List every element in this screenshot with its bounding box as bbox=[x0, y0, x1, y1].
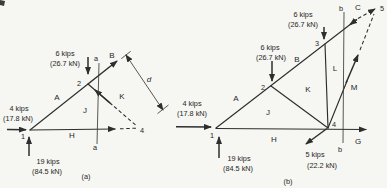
panel-b: 6 kips (26.7 kN) 6 kips (26.7 kN) 4 kips… bbox=[176, 3, 384, 187]
b-region-C-label: C bbox=[355, 3, 361, 12]
b-load-arrow-node4 bbox=[306, 129, 327, 145]
b-diagonal-member-2-4 bbox=[271, 86, 328, 128]
a-region-B-label: B bbox=[109, 51, 114, 60]
b-region-J-label: J bbox=[266, 108, 270, 117]
b-region-M-label: M bbox=[351, 83, 358, 92]
a-dimension-d-label: d bbox=[147, 75, 152, 84]
a-top-chord-member bbox=[30, 84, 88, 130]
a-load-node1-kn: (17.8 kN) bbox=[3, 114, 33, 123]
b-region-L-label: L bbox=[333, 64, 338, 73]
b-diagonal-member-4-5 bbox=[328, 81, 347, 128]
b-load-node1-kips: 4 kips bbox=[182, 99, 201, 108]
b-node-3-label: 3 bbox=[315, 39, 319, 48]
a-reaction-node1-kn: (84.5 kN) bbox=[32, 167, 62, 176]
b-diagonal-force-M-arrow bbox=[346, 55, 358, 83]
a-region-H-label: H bbox=[69, 131, 75, 140]
b-diagonal-dashed-extension-to-node5 bbox=[360, 14, 374, 50]
b-reaction-node1-kips: 19 kips bbox=[227, 154, 250, 163]
a-load-node2-kips: 6 kips bbox=[55, 49, 74, 58]
b-top-chord-force-C-arrow bbox=[350, 19, 357, 24]
b-section-line bbox=[343, 12, 344, 143]
a-node-2-label: 2 bbox=[77, 79, 81, 88]
b-load-node3-kips: 6 kips bbox=[293, 10, 312, 19]
a-top-chord-force-B-arrow bbox=[88, 61, 117, 84]
b-node-5-label: 5 bbox=[380, 4, 384, 13]
b-section-label-bottom: b bbox=[338, 145, 342, 154]
figure-page: 6 kips (26.7 kN) 4 kips (17.8 kN) 19 kip… bbox=[0, 0, 387, 188]
b-region-G-label: G bbox=[355, 137, 361, 146]
b-panel-caption: (b) bbox=[284, 177, 293, 186]
a-panel-caption: (a) bbox=[82, 172, 91, 181]
a-dimension-tick-top bbox=[121, 51, 130, 58]
panel-a: 6 kips (26.7 kN) 4 kips (17.8 kN) 19 kip… bbox=[3, 49, 169, 181]
b-section-label-top: b bbox=[339, 4, 343, 13]
a-reaction-node1-kips: 19 kips bbox=[36, 157, 59, 166]
a-bottom-chord-force-H-arrow bbox=[30, 129, 115, 130]
b-region-H-label: H bbox=[271, 135, 277, 144]
b-load-node2-kn: (26.7 kN) bbox=[256, 53, 286, 62]
scan-artifact bbox=[0, 0, 5, 6]
b-node-4-label: 4 bbox=[332, 120, 336, 129]
a-node-4-label: 4 bbox=[140, 126, 144, 135]
a-region-J-label: J bbox=[83, 106, 87, 115]
a-node-1-label: 1 bbox=[21, 132, 25, 141]
a-diagonal-dashed-extension bbox=[114, 106, 136, 125]
b-load-node2-kips: 6 kips bbox=[260, 43, 279, 52]
b-load-node4-kips: 5 kips bbox=[305, 150, 324, 159]
a-load-node1-kips: 4 kips bbox=[9, 104, 28, 113]
truss-figure-canvas: 6 kips (26.7 kN) 4 kips (17.8 kN) 19 kip… bbox=[0, 0, 387, 188]
a-dimension-tick-bottom bbox=[158, 105, 169, 114]
b-node-2-label: 2 bbox=[261, 83, 265, 92]
a-dimension-d-line bbox=[126, 55, 163, 110]
a-load-node2-kn: (26.7 kN) bbox=[50, 59, 80, 68]
b-reaction-node1-kn: (84.5 kN) bbox=[223, 164, 253, 173]
a-region-K-label: K bbox=[119, 92, 125, 101]
a-diagonal-force-K-arrow bbox=[95, 90, 110, 103]
a-region-A-label: A bbox=[54, 93, 60, 102]
b-node-1-label: 1 bbox=[210, 131, 214, 140]
a-section-label-top: a bbox=[94, 54, 99, 63]
b-vertical-member bbox=[325, 44, 328, 128]
b-load-node4-kn: (22.2 kN) bbox=[307, 161, 337, 170]
b-top-chord-dashed-extension bbox=[358, 12, 370, 19]
b-load-node1-kn: (17.8 kN) bbox=[177, 109, 207, 118]
a-bottom-chord-dashed-extension bbox=[120, 128, 136, 129]
b-region-B-label: B bbox=[294, 55, 299, 64]
b-line-of-action-arrow-to-node5 bbox=[369, 9, 375, 12]
a-section-label-bottom: a bbox=[93, 143, 98, 152]
b-region-K-label: K bbox=[305, 85, 311, 94]
b-region-A-label: A bbox=[233, 94, 239, 103]
b-load-node3-kn: (26.7 kN) bbox=[288, 20, 318, 29]
